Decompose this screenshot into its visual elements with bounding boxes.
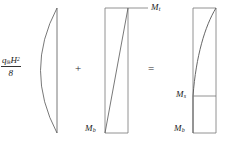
linear-moment-line — [105, 8, 128, 133]
height-exponent: 2 — [17, 56, 20, 62]
resultant-moment-curve — [193, 8, 216, 133]
moment-span-subscript: s — [184, 93, 186, 99]
moment-top-subscript: t — [159, 6, 161, 12]
panel-end-moment-graphic — [105, 8, 148, 133]
moment-bottom-subscript: b — [93, 127, 96, 133]
moment-top-label: Mt — [151, 3, 160, 12]
bending-moment-figure: + = qikH2 8 Mt Mb Ms Mb — [0, 0, 225, 142]
panel-load-moment-graphic — [41, 8, 58, 133]
load-moment-denominator: 8 — [1, 68, 21, 79]
moment-span-label: Ms — [176, 90, 186, 99]
equals-operator: = — [148, 63, 154, 74]
load-moment-formula-label: qikH2 8 — [1, 55, 21, 78]
moment-bottom-label-right: Mb — [174, 124, 185, 133]
parabolic-moment-curve — [41, 8, 58, 133]
moment-bottom-base-right: M — [174, 123, 182, 133]
moment-bottom-base: M — [85, 123, 93, 133]
moment-bottom-subscript-right: b — [182, 127, 185, 133]
moment-diagrams-canvas — [0, 0, 225, 142]
moment-top-base: M — [151, 2, 159, 12]
moment-span-base: M — [176, 89, 184, 99]
load-moment-numerator: qikH2 — [1, 55, 21, 66]
panel-resultant-moment-graphic — [193, 8, 216, 133]
plus-operator: + — [75, 63, 81, 74]
moment-bottom-label-middle: Mb — [85, 124, 96, 133]
